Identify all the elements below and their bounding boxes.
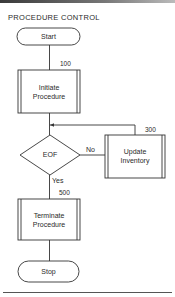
update-number: 300 — [145, 126, 156, 133]
arrowhead-icon — [50, 123, 54, 126]
terminate-label: Terminate Procedure — [18, 211, 80, 229]
update-label: Update Inventory — [105, 147, 165, 165]
no-label: No — [86, 146, 95, 153]
bottom-rule — [3, 292, 172, 293]
initiate-number: 100 — [60, 60, 71, 67]
eof-label: EOF — [30, 150, 70, 159]
terminate-number: 500 — [59, 189, 70, 196]
stop-label: Stop — [18, 267, 79, 276]
start-label: Start — [17, 32, 80, 41]
initiate-label: Initiate Procedure — [18, 83, 80, 101]
yes-label: Yes — [52, 177, 63, 184]
